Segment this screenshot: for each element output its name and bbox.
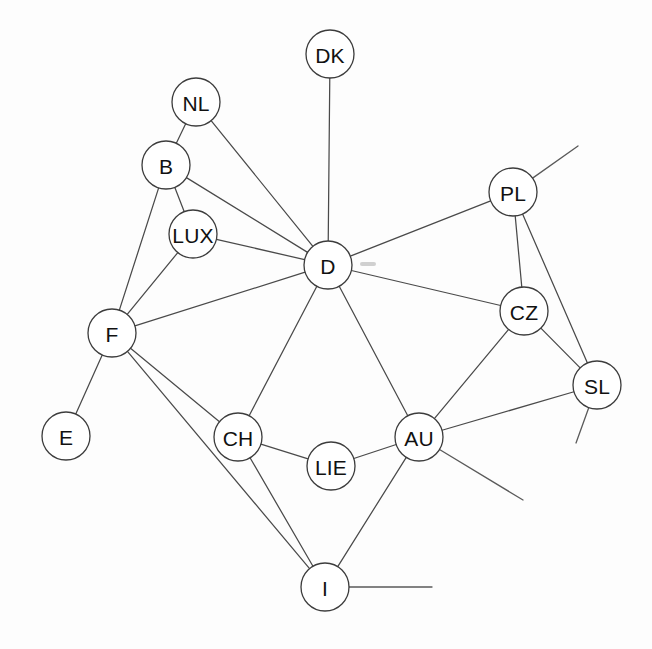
graph-node-label-lie: LIE [315,456,347,479]
graph-node-lie[interactable]: LIE [307,442,355,490]
graph-edge-pl-cz [515,216,522,287]
graph-node-label-i: I [322,577,328,600]
graph-node-label-e: E [59,426,73,449]
graph-node-label-d: D [320,255,335,278]
graph-node-sl[interactable]: SL [573,361,621,409]
graph-svg: DKNLBPLLUXDCZFSLECHAULIEI [0,0,652,649]
graph-diagram-canvas: DKNLBPLLUXDCZFSLECHAULIEI [0,0,652,649]
graph-node-d[interactable]: D [304,241,352,289]
free-edges-layer [349,146,589,587]
graph-node-label-f: F [105,323,118,346]
graph-node-label-pl: PL [500,182,526,205]
graph-node-label-lux: LUX [172,224,213,247]
graph-edge-cz-au [434,329,508,418]
graph-edge-b-f [119,188,158,310]
graph-node-f[interactable]: F [88,309,136,357]
smudge-artifact [360,262,376,266]
graph-node-ch[interactable]: CH [214,413,262,461]
graph-edge-d-au [339,286,408,416]
graph-node-label-b: B [159,155,173,178]
graph-node-nl[interactable]: NL [172,78,220,126]
graph-edge-f-ch [131,348,220,421]
graph-node-label-nl: NL [182,92,209,115]
graph-edge-b-lux [175,187,185,211]
sl-free-edge [576,408,589,443]
graph-edge-d-pl [350,201,490,256]
graph-edge-nl-b [176,124,185,144]
graph-node-label-ch: CH [223,427,254,450]
graph-node-label-sl: SL [584,375,610,398]
graph-edge-d-ch [249,286,317,415]
graph-node-e[interactable]: E [42,412,90,460]
au-free-edge [440,449,523,500]
graph-edge-dk-d [328,78,330,241]
pl-free-edge [533,146,578,178]
graph-edge-ch-i [250,458,313,566]
graph-node-label-au: AU [404,427,434,450]
graph-node-lux[interactable]: LUX [169,210,217,258]
graph-edge-f-i [127,351,309,568]
graph-node-i[interactable]: I [301,563,349,611]
graph-edge-au-sl [442,392,574,431]
graph-node-au[interactable]: AU [395,413,443,461]
graph-node-cz[interactable]: CZ [500,287,548,335]
graph-edge-ch-lie [261,444,308,459]
graph-edge-d-cz [351,270,500,305]
graph-node-label-dk: DK [315,44,345,67]
graph-node-dk[interactable]: DK [306,30,354,78]
graph-edge-d-f [135,272,305,326]
nodes-layer: DKNLBPLLUXDCZFSLECHAULIEI [42,30,621,611]
smudge-artifact-mark [360,262,376,266]
graph-node-pl[interactable]: PL [489,168,537,216]
graph-edge-lie-au [354,445,396,459]
graph-node-b[interactable]: B [142,141,190,189]
graph-node-label-cz: CZ [510,301,538,324]
graph-edge-nl-d [211,121,313,247]
graph-edge-f-e [76,355,102,414]
